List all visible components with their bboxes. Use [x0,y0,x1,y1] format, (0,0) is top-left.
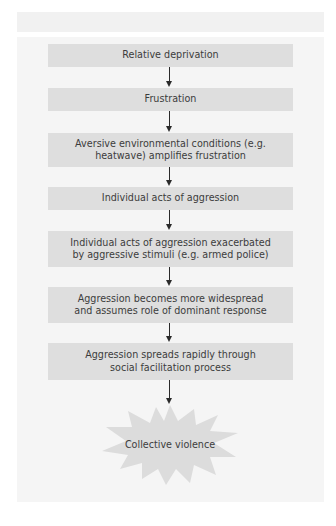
down-arrow-icon [169,323,171,343]
down-arrow-icon [169,111,171,133]
flow-step-label: Relative deprivation [122,49,218,62]
outcome-label: Collective violence [125,439,215,450]
flow-step-individual-aggression: Individual acts of aggression [48,187,293,210]
flow-step-aversive-conditions: Aversive environmental conditions (e.g. … [48,133,293,167]
flow-step-aggression-widespread: Aggression becomes more widespread and a… [48,287,293,323]
flow-step-label: Aggression spreads rapidly through socia… [74,349,267,374]
down-arrow-icon [169,67,171,88]
down-arrow-icon [169,167,171,187]
down-arrow-icon [169,210,171,231]
flow-step-label: Individual acts of aggression [102,192,239,205]
header-bar [17,12,324,32]
outcome-collective-violence: Collective violence [98,403,242,485]
flow-step-label: Aversive environmental conditions (e.g. … [56,138,285,163]
flow-step-label: Aggression becomes more widespread and a… [70,293,271,318]
flow-step-label: Frustration [145,93,197,106]
flow-step-relative-deprivation: Relative deprivation [48,44,293,67]
down-arrow-icon [169,267,171,287]
flow-step-social-facilitation: Aggression spreads rapidly through socia… [48,343,293,380]
flow-step-frustration: Frustration [48,88,293,111]
flow-step-aggression-exacerbated: Individual acts of aggression exacerbate… [48,231,293,267]
flow-step-label: Individual acts of aggression exacerbate… [70,237,271,262]
down-arrow-icon [169,380,171,405]
